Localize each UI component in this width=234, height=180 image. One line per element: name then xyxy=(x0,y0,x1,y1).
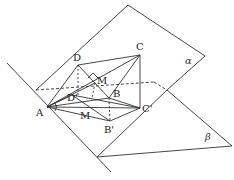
plane-alpha-outline xyxy=(36,5,205,90)
label-A: A xyxy=(35,107,44,118)
label-B-prime: B' xyxy=(104,124,114,135)
label-beta: β xyxy=(204,131,211,142)
dashed-BB2 xyxy=(109,98,110,121)
edge-AC2 xyxy=(47,107,140,108)
label-B: B xyxy=(113,88,120,99)
label-D: D xyxy=(73,52,81,63)
label-C: C xyxy=(136,41,144,52)
dashed-MM2 xyxy=(92,83,95,99)
label-C-prime: C' xyxy=(142,103,152,114)
label-M: M xyxy=(97,75,107,86)
edge-B2C2 xyxy=(110,108,140,121)
plane-beta-dashed-corner xyxy=(154,82,167,90)
label-M-prime: M xyxy=(80,110,90,121)
diagram-svg: A D C M B C' D' M B' α β xyxy=(0,0,234,180)
label-D-prime: D' xyxy=(67,92,78,103)
label-alpha: α xyxy=(185,55,192,66)
plane-beta-outline xyxy=(97,90,232,157)
geometry-diagram: A D C M B C' D' M B' α β xyxy=(0,0,234,180)
